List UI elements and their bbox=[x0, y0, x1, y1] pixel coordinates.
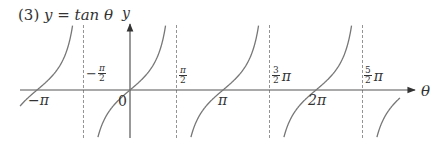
denominator: 2 bbox=[273, 76, 279, 85]
denominator: 2 bbox=[99, 74, 105, 83]
denominator: 2 bbox=[180, 76, 186, 85]
equation-label: y = tan θ bbox=[44, 6, 113, 24]
tan-branch bbox=[377, 98, 400, 137]
origin-label: 0 bbox=[118, 93, 127, 109]
tick-neg-half-pi: − π2 bbox=[86, 64, 106, 83]
tan-branch bbox=[284, 26, 352, 138]
tan-branch bbox=[98, 26, 166, 138]
figure-number: (3) bbox=[18, 6, 39, 24]
chart-title: (3) y = tan θ bbox=[18, 6, 113, 24]
tan-branch bbox=[191, 26, 259, 138]
x-axis-label: θ bbox=[421, 82, 430, 100]
tan-curves bbox=[20, 26, 400, 138]
pi-symbol: π bbox=[282, 68, 291, 84]
pi-symbol: π bbox=[374, 68, 383, 84]
tick-three-half-pi: 32 π bbox=[272, 66, 291, 85]
tick-neg-pi: −π bbox=[28, 92, 49, 108]
tick-pi: π bbox=[218, 92, 227, 108]
denominator: 2 bbox=[365, 76, 371, 85]
tick-five-half-pi: 52 π bbox=[364, 66, 383, 85]
minus-sign: − bbox=[86, 66, 97, 81]
tick-two-pi: 2π bbox=[308, 92, 326, 108]
tick-half-pi: π2 bbox=[179, 66, 187, 85]
y-axis-label: y bbox=[122, 5, 130, 21]
asymptote-lines bbox=[83, 25, 362, 138]
